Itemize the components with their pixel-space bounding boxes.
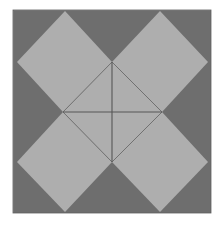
- quilt-block-figure: [0, 0, 221, 226]
- figure-root: [0, 0, 221, 226]
